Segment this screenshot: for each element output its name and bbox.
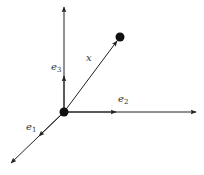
e2-label: e2 [118,93,128,106]
origin-point [60,108,69,117]
e1-axis [11,112,64,163]
e3-label: e3 [51,61,61,74]
vector-diagram: e3 e2 e1 x [0,0,204,175]
e1-label: e1 [26,121,36,134]
x-label: x [86,52,92,63]
x-endpoint [116,33,125,42]
